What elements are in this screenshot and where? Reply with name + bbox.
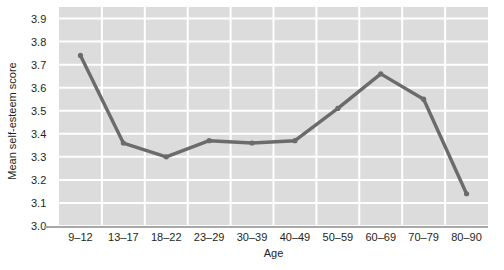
chart-figure: Mean self-esteem score 3.03.13.23.33.43.… — [0, 0, 504, 270]
y-axis-tick-label: 3.2 — [31, 175, 56, 186]
data-point-marker — [164, 154, 169, 159]
data-point-marker — [335, 106, 340, 111]
data-point-marker — [207, 138, 212, 143]
y-axis-tick-labels: 3.03.13.23.33.43.53.63.73.83.9 — [31, 10, 56, 226]
x-axis-tick-label: 40–49 — [280, 231, 311, 244]
y-axis-tick-label: 3.1 — [31, 198, 56, 209]
data-point-marker — [292, 138, 297, 143]
x-axis-tick-label: 9–12 — [68, 231, 92, 244]
x-axis-tick-label: 18–22 — [151, 231, 182, 244]
data-point-marker — [421, 97, 426, 102]
x-axis-tick-label: 80–90 — [451, 231, 482, 244]
x-axis-tick-label: 60–69 — [365, 231, 396, 244]
y-axis-tick-label: 3.7 — [31, 60, 56, 71]
y-axis-tick-label: 3.9 — [31, 14, 56, 25]
y-axis-label: Mean self-esteem score — [4, 6, 20, 236]
y-axis-tick-label: 3.4 — [31, 129, 56, 140]
x-axis-tick-label: 23–29 — [194, 231, 225, 244]
y-axis-tick-label: 3.6 — [31, 83, 56, 94]
x-axis-tick-label: 13–17 — [108, 231, 139, 244]
data-point-marker — [121, 140, 126, 145]
x-axis-tick-labels: 9–1213–1718–2223–2930–3940–4950–5960–697… — [59, 231, 488, 245]
line-chart-svg — [59, 7, 488, 226]
y-axis-tick-label: 3.5 — [31, 106, 56, 117]
x-axis-tick-label: 70–79 — [408, 231, 439, 244]
data-point-marker — [249, 140, 254, 145]
gridlines — [59, 7, 488, 226]
data-point-marker — [78, 53, 83, 58]
x-axis-tick-label: 30–39 — [237, 231, 268, 244]
x-axis-label: Age — [59, 247, 488, 260]
y-axis-tick-label: 3.8 — [31, 37, 56, 48]
data-point-marker — [378, 71, 383, 76]
data-point-marker — [464, 191, 469, 196]
x-axis-tick-label: 50–59 — [323, 231, 354, 244]
y-axis-tick-label: 3.3 — [31, 152, 56, 163]
plot-area — [59, 7, 488, 226]
x-axis-line — [44, 226, 488, 228]
